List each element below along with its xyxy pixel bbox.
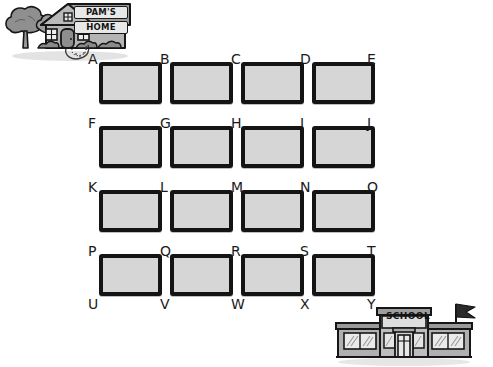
grid-label-I[interactable]: I [300,116,304,130]
pams-home-sign-line1: PAM'S [74,6,128,19]
worksheet-canvas: PAM'S HOME ABCDEFGHIJKLMNOPQRSTUVWXY [0,0,493,367]
grid-label-P[interactable]: P [88,244,97,258]
grid-label-A[interactable]: A [88,52,98,66]
grid-square-C[interactable] [241,62,304,104]
grid-square-N[interactable] [312,190,375,232]
grid-square-G[interactable] [170,126,233,168]
grid-square-F[interactable] [99,126,162,168]
pams-home-illustration: PAM'S HOME [2,0,137,62]
grid-square-D[interactable] [312,62,375,104]
school-sign: SCHOOL [382,311,434,321]
grid-label-S[interactable]: S [300,244,309,258]
grid-label-F[interactable]: F [88,116,96,130]
grid-label-O[interactable]: O [367,180,378,194]
pams-home-sign-line2: HOME [74,21,128,34]
grid-label-L[interactable]: L [160,180,168,194]
grid-square-A[interactable] [99,62,162,104]
grid-label-R[interactable]: R [231,244,241,258]
grid-square-M[interactable] [241,190,304,232]
grid-label-M[interactable]: M [231,180,243,194]
grid-square-K[interactable] [99,190,162,232]
grid-label-K[interactable]: K [88,180,97,194]
grid-label-W[interactable]: W [231,297,245,311]
grid-label-E[interactable]: E [367,52,376,66]
grid-square-B[interactable] [170,62,233,104]
grid-label-X[interactable]: X [300,297,310,311]
grid-square-Q[interactable] [170,254,233,296]
grid-label-N[interactable]: N [300,180,311,194]
grid-label-G[interactable]: G [160,116,171,130]
grid-square-L[interactable] [170,190,233,232]
grid-label-B[interactable]: B [160,52,170,66]
grid-label-C[interactable]: C [231,52,241,66]
grid-square-S[interactable] [312,254,375,296]
grid-label-V[interactable]: V [160,297,170,311]
grid-label-J[interactable]: J [367,116,371,130]
grid-label-D[interactable]: D [300,52,311,66]
grid-label-H[interactable]: H [231,116,242,130]
pams-home-sign: PAM'S HOME [74,6,128,36]
school-illustration: SCHOOL [332,300,492,367]
grid-label-Q[interactable]: Q [160,244,171,258]
grid-square-R[interactable] [241,254,304,296]
grid-square-I[interactable] [312,126,375,168]
grid-label-T[interactable]: T [367,244,376,258]
grid-square-H[interactable] [241,126,304,168]
grid-label-U[interactable]: U [88,297,99,311]
grid-square-P[interactable] [99,254,162,296]
